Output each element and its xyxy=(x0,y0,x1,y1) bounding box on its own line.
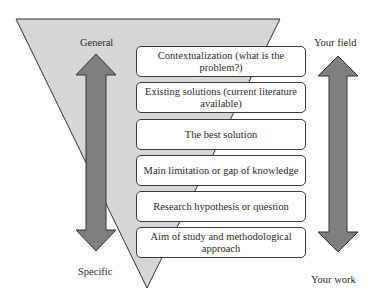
right-double-arrow-icon xyxy=(318,56,358,252)
step-existing-solutions: Existing solutions (current literature a… xyxy=(136,82,306,113)
general-label: General xyxy=(80,37,113,48)
step-research-hypothesis: Research hypothesis or question xyxy=(136,191,306,222)
your-work-label: Your work xyxy=(311,274,356,285)
step-best-solution: The best solution xyxy=(136,119,306,150)
specific-label: Specific xyxy=(78,266,112,277)
step-aim-of-study: Aim of study and methodological approach xyxy=(136,227,306,258)
your-field-label: Your field xyxy=(314,37,356,48)
step-contextualization: Contextualization (what is the problem?) xyxy=(136,46,306,77)
step-main-limitation: Main limitation or gap of knowledge xyxy=(136,155,306,186)
